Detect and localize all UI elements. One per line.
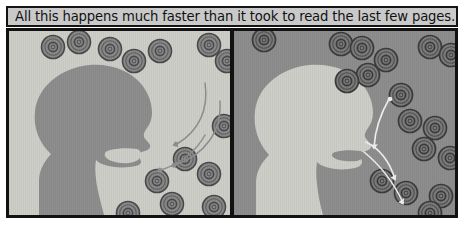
comic-strip: All this happens much faster than it too… [0,0,466,229]
caption-text: All this happens much faster than it too… [15,10,455,23]
comic-panel-exhale [234,31,455,215]
exhale-panel-artwork [234,31,455,215]
caption-box: All this happens much faster than it too… [6,6,458,27]
inhale-panel-artwork [9,31,230,215]
comic-panel-inhale [9,31,230,215]
panel-row [6,28,458,218]
